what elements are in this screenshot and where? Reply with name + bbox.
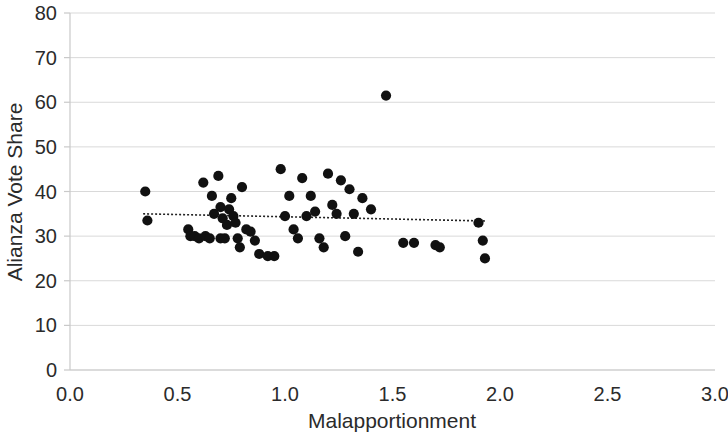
x-tick-labels-group: 0.00.51.01.52.02.53.0 <box>56 383 728 405</box>
y-tick-label-20: 20 <box>35 270 57 292</box>
y-axis-title: Alianza Vote Share <box>3 103 26 282</box>
data-point <box>246 227 256 237</box>
data-point <box>340 231 350 241</box>
x-tick-label-2.0: 2.0 <box>486 383 514 405</box>
data-point <box>332 209 342 219</box>
data-point <box>222 220 232 230</box>
data-point <box>435 242 445 252</box>
y-tick-label-30: 30 <box>35 225 57 247</box>
data-points-group <box>140 90 490 263</box>
x-tick-label-0.5: 0.5 <box>164 383 192 405</box>
data-point <box>301 211 311 221</box>
data-point <box>473 218 483 228</box>
y-tick-label-80: 80 <box>35 2 57 24</box>
y-tick-label-70: 70 <box>35 47 57 69</box>
data-point <box>314 233 324 243</box>
x-tick-label-0.0: 0.0 <box>56 383 84 405</box>
data-point <box>269 251 279 261</box>
data-point <box>198 177 208 187</box>
data-point <box>237 182 247 192</box>
data-point <box>220 233 230 243</box>
data-point <box>254 249 264 259</box>
x-axis-title: Malapportionment <box>308 409 476 432</box>
data-point <box>344 184 354 194</box>
data-point <box>478 235 488 245</box>
data-point <box>409 238 419 248</box>
x-tick-label-1.0: 1.0 <box>271 383 299 405</box>
y-tick-label-40: 40 <box>35 181 57 203</box>
data-point <box>297 173 307 183</box>
data-point <box>280 211 290 221</box>
data-point <box>142 215 152 225</box>
data-point <box>215 202 225 212</box>
data-point <box>353 247 363 257</box>
data-point <box>233 233 243 243</box>
y-tick-labels-group: 01020304050607080 <box>35 2 57 381</box>
data-point <box>323 169 333 179</box>
data-point <box>381 90 391 100</box>
data-point <box>250 235 260 245</box>
data-point <box>293 233 303 243</box>
data-point <box>327 200 337 210</box>
data-point <box>336 175 346 185</box>
y-tick-label-0: 0 <box>46 359 57 381</box>
x-tick-label-2.5: 2.5 <box>594 383 622 405</box>
data-point <box>230 218 240 228</box>
data-point <box>310 206 320 216</box>
y-tick-label-10: 10 <box>35 314 57 336</box>
data-point <box>289 224 299 234</box>
data-point <box>349 209 359 219</box>
data-point <box>366 204 376 214</box>
gridlines-group <box>70 13 715 370</box>
x-tick-label-3.0: 3.0 <box>701 383 728 405</box>
scatter-chart: 01020304050607080 0.00.51.01.52.02.53.0 … <box>0 0 728 438</box>
data-point <box>319 242 329 252</box>
data-point <box>207 191 217 201</box>
plot-canvas: 01020304050607080 0.00.51.01.52.02.53.0 … <box>0 0 728 438</box>
y-tick-label-60: 60 <box>35 91 57 113</box>
data-point <box>205 233 215 243</box>
data-point <box>357 193 367 203</box>
data-point <box>213 171 223 181</box>
data-point <box>480 253 490 263</box>
data-point <box>226 193 236 203</box>
y-tick-label-50: 50 <box>35 136 57 158</box>
data-point <box>235 242 245 252</box>
data-point <box>284 191 294 201</box>
x-tick-label-1.5: 1.5 <box>379 383 407 405</box>
data-point <box>306 191 316 201</box>
data-point <box>398 238 408 248</box>
data-point <box>276 164 286 174</box>
data-point <box>140 186 150 196</box>
